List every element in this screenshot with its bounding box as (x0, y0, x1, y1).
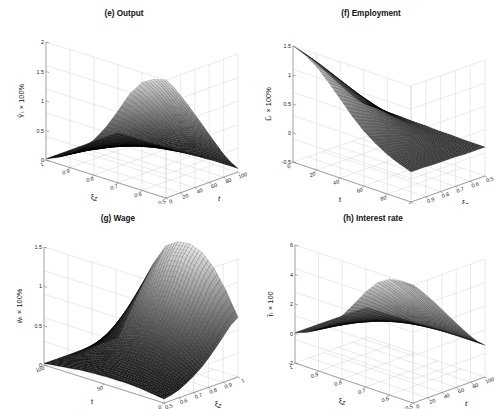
svg-text:0: 0 (290, 331, 293, 337)
svg-text:1.5: 1.5 (35, 244, 43, 250)
z-axis-label: L̂ₜ × 100% (264, 87, 273, 121)
svg-text:4: 4 (290, 272, 293, 278)
svg-text:80: 80 (380, 194, 388, 202)
svg-text:0.8: 0.8 (334, 379, 343, 387)
y-axis: 020406080100 (166, 171, 247, 204)
x-axis-label: t (339, 195, 341, 204)
svg-text:2: 2 (41, 39, 44, 45)
svg-text:6: 6 (290, 242, 293, 248)
svg-text:50: 50 (96, 384, 104, 392)
y-axis: 10.90.80.70.60.5 (411, 175, 494, 204)
svg-text:40: 40 (332, 178, 340, 186)
z-axis-label: ŵₜ × 100% (15, 288, 24, 324)
z-axis: 00.511.52 (37, 39, 50, 163)
panel-f: -0.500.511.502040608010010.90.80.70.60.5… (247, 0, 494, 204)
svg-text:0.5: 0.5 (164, 402, 173, 409)
svg-text:0: 0 (168, 198, 173, 204)
panel-title: (h) Interest rate (343, 214, 403, 223)
svg-text:100: 100 (35, 365, 45, 373)
svg-text:0.5: 0.5 (284, 101, 292, 107)
svg-text:1: 1 (288, 72, 291, 78)
y-axis-label: t (465, 399, 468, 408)
svg-text:80: 80 (472, 382, 480, 390)
z-axis: -0.500.511.5 (282, 43, 296, 165)
y-axis-label: t (218, 194, 221, 203)
svg-text:0.9: 0.9 (310, 371, 319, 379)
z-axis-label: Ŷₜ × 100% (17, 83, 26, 118)
svg-text:1.5: 1.5 (284, 43, 292, 49)
svg-text:100: 100 (485, 376, 494, 385)
svg-text:60: 60 (210, 182, 218, 190)
x-axis-label: ξZ (339, 396, 346, 406)
svg-text:2: 2 (290, 301, 293, 307)
svg-text:1: 1 (39, 283, 42, 289)
z-axis: -20246 (288, 242, 298, 366)
svg-text:80: 80 (225, 177, 233, 185)
svg-text:60: 60 (457, 387, 465, 395)
svg-text:0.6: 0.6 (381, 395, 390, 403)
svg-text:100: 100 (238, 171, 247, 180)
svg-text:1: 1 (41, 98, 44, 104)
surface-mesh (295, 279, 485, 345)
z-axis-label: r̂ₜ × 100 (266, 291, 275, 317)
panel-h: -2024610.90.80.70.60.5020406080100ξZtr̂ₜ… (247, 205, 494, 409)
svg-text:0.8: 0.8 (85, 175, 94, 183)
x-axis-label: t (91, 397, 93, 406)
svg-text:0.8: 0.8 (209, 387, 218, 395)
figure-canvas: 00.511.5210.90.80.70.60.5020406080100ξZt… (0, 0, 494, 409)
svg-text:0.6: 0.6 (470, 180, 479, 188)
svg-text:40: 40 (196, 187, 204, 195)
surface-mesh (44, 242, 238, 400)
svg-text:0.7: 0.7 (357, 387, 366, 395)
svg-text:0.5: 0.5 (37, 128, 45, 134)
x-axis-label: ξZ (91, 192, 98, 202)
svg-text:0.9: 0.9 (223, 381, 232, 389)
panel-g: 00.511.51005000.50.60.70.80.91tξZŵₜ × 10… (0, 205, 247, 409)
panel-title: (g) Wage (101, 214, 136, 223)
svg-text:0.8: 0.8 (441, 191, 450, 199)
svg-text:20: 20 (181, 192, 189, 200)
svg-text:0.5: 0.5 (485, 175, 494, 183)
svg-text:0.5: 0.5 (35, 323, 43, 329)
svg-text:0.9: 0.9 (426, 196, 435, 204)
y-axis-label: ξZ (215, 399, 222, 409)
svg-text:0.9: 0.9 (61, 168, 70, 176)
svg-text:0: 0 (288, 130, 291, 136)
panel-e: 00.511.5210.90.80.70.60.5020406080100ξZt… (0, 0, 247, 204)
svg-text:0.6: 0.6 (179, 397, 188, 405)
svg-text:20: 20 (309, 170, 317, 178)
panel-title: (f) Employment (341, 9, 401, 18)
panel-title: (e) Output (104, 9, 143, 18)
svg-text:1: 1 (413, 202, 418, 204)
svg-text:60: 60 (356, 186, 364, 194)
svg-text:0.7: 0.7 (456, 186, 465, 194)
svg-text:20: 20 (428, 397, 436, 405)
svg-text:0.6: 0.6 (133, 190, 142, 198)
x-axis: 10.90.80.70.60.5 (40, 160, 167, 204)
svg-text:0.7: 0.7 (109, 183, 118, 191)
svg-text:1: 1 (240, 377, 245, 384)
svg-text:0: 0 (158, 404, 163, 409)
surface-mesh (293, 46, 485, 172)
y-axis-label: ξZ (462, 198, 469, 204)
svg-text:0: 0 (415, 403, 420, 409)
svg-text:0.7: 0.7 (194, 392, 203, 400)
x-axis: 020406080100 (287, 162, 413, 204)
svg-text:40: 40 (443, 392, 451, 400)
z-axis: 00.511.5 (35, 244, 48, 368)
y-axis: 020406080100 (413, 376, 494, 409)
x-axis: 10.90.80.70.60.5 (289, 363, 414, 409)
svg-text:1.5: 1.5 (37, 69, 45, 75)
